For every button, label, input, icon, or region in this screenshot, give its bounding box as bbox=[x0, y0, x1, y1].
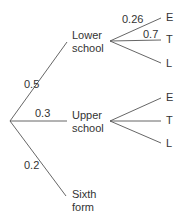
sixth-form-line2: form bbox=[72, 201, 96, 214]
upper-e: E bbox=[166, 91, 173, 104]
sixth-form-label: Sixth form bbox=[72, 188, 96, 214]
prob-lower: 0.5 bbox=[24, 78, 39, 91]
prob-sixth: 0.2 bbox=[24, 159, 39, 172]
lower-e: E bbox=[166, 11, 173, 24]
upper-school-line1: Upper bbox=[72, 109, 104, 122]
lower-t: T bbox=[166, 33, 173, 46]
upper-t: T bbox=[166, 114, 173, 127]
upper-l: L bbox=[166, 137, 172, 150]
sixth-form-line1: Sixth bbox=[72, 188, 96, 201]
prob-upper: 0.3 bbox=[35, 107, 50, 120]
upper-school-line2: school bbox=[72, 122, 104, 135]
lower-school-line1: Lower bbox=[72, 29, 104, 42]
lower-school-label: Lower school bbox=[72, 29, 104, 55]
lower-school-line2: school bbox=[72, 42, 104, 55]
prob-lower-t: 0.7 bbox=[143, 28, 158, 41]
prob-lower-e: 0.26 bbox=[122, 13, 143, 26]
lower-l: L bbox=[166, 57, 172, 70]
upper-school-label: Upper school bbox=[72, 109, 104, 135]
